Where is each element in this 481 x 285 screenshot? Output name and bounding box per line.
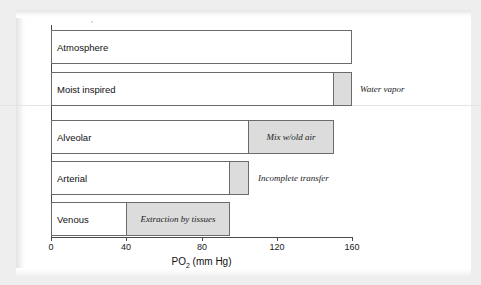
annotation-mix-with-old-air: Mix w/old air [267, 132, 316, 142]
annotation-incomplete-transfer: Incomplete transfer [258, 173, 329, 183]
bar-row-arterial: Arterial [51, 161, 249, 195]
bar-label-moist-inspired: Moist inspired [57, 84, 116, 95]
bar-row-alveolar: Mix w/old air Alveolar [51, 120, 334, 154]
x-axis-tick-label-160: 160 [344, 242, 359, 252]
x-axis-title-units: (mm Hg) [190, 256, 232, 267]
x-axis-tick-label-120: 120 [269, 242, 284, 252]
x-axis-tick-label-80: 80 [197, 242, 207, 252]
annotation-water-vapor: Water vapor [360, 84, 404, 94]
x-axis-tick-120 [277, 237, 278, 241]
x-axis-tick-0 [51, 237, 52, 241]
bar-segment-moist-inspired-water-vapor [333, 72, 352, 106]
bar-row-venous: Extraction by tissues Venous [51, 202, 230, 236]
bar-row-moist-inspired: Moist inspired [51, 72, 352, 106]
x-axis-title: PO2 (mm Hg) [51, 256, 352, 269]
x-axis-title-base: PO [171, 256, 185, 267]
bar-label-atmosphere: Atmosphere [57, 42, 108, 53]
bar-label-alveolar: Alveolar [57, 132, 91, 143]
bar-label-arterial: Arterial [57, 173, 87, 184]
oxygen-cascade-bar-chart: 0 40 80 120 160 PO2 (mm Hg) Atmosphere M… [0, 0, 481, 285]
bar-label-venous: Venous [57, 214, 89, 225]
x-axis-tick-80 [202, 237, 203, 241]
bar-segment-arterial-incomplete-transfer [229, 161, 249, 195]
annotation-extraction-by-tissues: Extraction by tissues [141, 214, 216, 224]
x-axis-tick-label-40: 40 [121, 242, 131, 252]
bar-row-atmosphere: Atmosphere [51, 30, 352, 64]
x-axis-tick-160 [352, 237, 353, 241]
x-axis-tick-label-0: 0 [48, 242, 53, 252]
x-axis-tick-40 [126, 237, 127, 241]
bar-segment-alveolar-mix-old-air: Mix w/old air [248, 120, 334, 154]
bar-segment-venous-extraction-by-tissues: Extraction by tissues [126, 202, 230, 236]
